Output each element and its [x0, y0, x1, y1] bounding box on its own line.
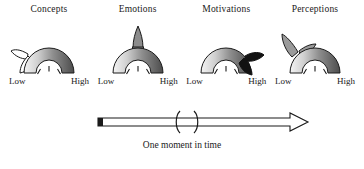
gauge-unit-perceptions: Perceptions: [272, 0, 358, 100]
gauges-timeline-diagram: Concepts: [0, 0, 364, 169]
scale-label-low: Low: [186, 76, 203, 86]
scale-labels-concepts: Low High: [6, 76, 92, 86]
gauge-ticks: [126, 66, 149, 74]
gauge-ticks: [303, 66, 326, 74]
gauge-graphic-concepts: [6, 18, 92, 80]
scale-label-high: High: [248, 76, 266, 86]
gauge-unit-motivations: Motivations: [183, 0, 269, 100]
gauge-title-motivations: Motivations: [183, 4, 269, 14]
gauge-ticks: [38, 66, 61, 74]
timeline-caption: One moment in time: [0, 140, 364, 150]
gauges-row: Concepts: [0, 0, 364, 100]
gauge-unit-emotions: Emotions: [95, 0, 181, 100]
scale-label-high: High: [71, 76, 89, 86]
scale-label-low: Low: [9, 76, 26, 86]
scale-labels-perceptions: Low High: [272, 76, 358, 86]
gauge-unit-concepts: Concepts: [6, 0, 92, 100]
scale-labels-emotions: Low High: [95, 76, 181, 86]
scale-label-high: High: [160, 76, 178, 86]
gauge-graphic-emotions: [95, 18, 181, 80]
arrow-shape: [98, 113, 308, 131]
gauge-title-concepts: Concepts: [6, 4, 92, 14]
gauge-title-emotions: Emotions: [95, 4, 181, 14]
scale-label-high: High: [337, 76, 355, 86]
gauge-graphic-perceptions: [272, 18, 358, 80]
scale-label-low: Low: [275, 76, 292, 86]
gauge-graphic-motivations: [183, 18, 269, 80]
scale-labels-motivations: Low High: [183, 76, 269, 86]
spike-icon: [132, 26, 143, 51]
gauge-title-perceptions: Perceptions: [272, 4, 358, 14]
scale-label-low: Low: [98, 76, 115, 86]
arrow-tail-cap: [98, 118, 103, 126]
timeline-arrow: [0, 104, 364, 138]
gauge-ticks: [215, 66, 238, 74]
